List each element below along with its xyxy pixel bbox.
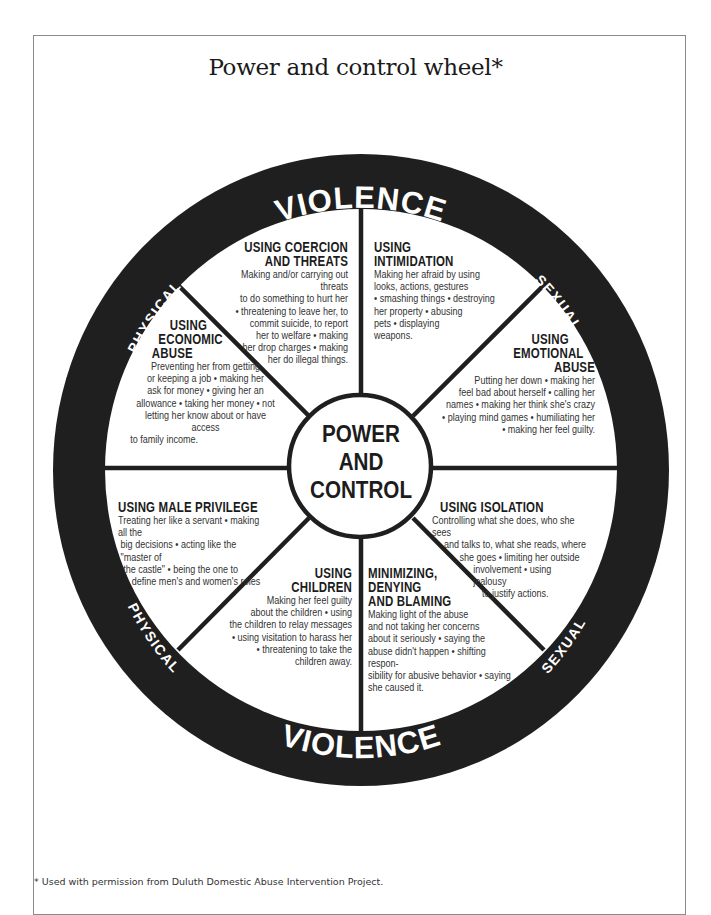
segment-minimizing-denying-blaming: MINIMIZING, DENYING AND BLAMING Making l… [368,566,543,693]
segment-heading: MINIMIZING, DENYING AND BLAMING [368,566,512,608]
segment-heading: USING ISOLATION [440,500,581,514]
segment-economic-abuse: USING ECONOMIC ABUSE Preventing her from… [118,318,293,445]
footnote: * Used with permission from Duluth Domes… [34,876,383,887]
segment-body: Making her afraid by using looks, action… [374,268,503,341]
segment-emotional-abuse: USING EMOTIONAL ABUSE Putting her down •… [400,332,595,435]
segment-heading: USING COERCION AND THREATS [218,240,348,268]
segment-male-privilege: USING MALE PRIVILEGE Treating her like a… [118,500,293,587]
segment-heading: USING INTIMIDATION [374,240,497,268]
segment-body: Making her feel guilty about the childre… [221,594,352,667]
segment-body: Treating her like a servant • making all… [118,514,269,587]
segment-heading: USING MALE PRIVILEGE [118,500,262,514]
segment-body: Making light of the abuse and not taking… [368,608,519,693]
segment-intimidation: USING INTIMIDATION Making her afraid by … [374,240,524,341]
center-line-2: AND [300,448,422,476]
center-line-3: CONTROL [300,476,422,504]
segment-body: Preventing her from getting or keeping a… [130,360,281,445]
segment-heading: USING ECONOMIC ABUSE [134,318,278,360]
segment-heading: USING EMOTIONAL ABUSE [435,332,595,374]
segment-body: Putting her down • making her feel bad a… [427,374,595,435]
